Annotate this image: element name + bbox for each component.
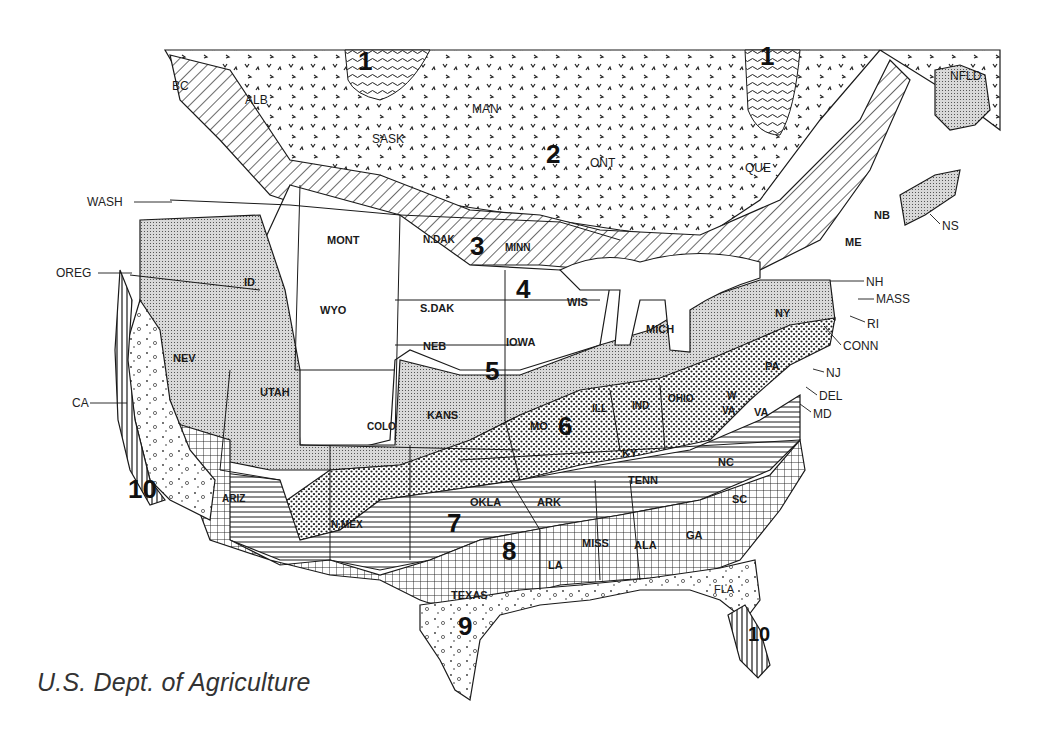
region-label-texas: TEXAS (451, 590, 488, 601)
region-label-nev: NEV (173, 353, 196, 364)
callout-label-nj: NJ (826, 367, 841, 379)
zone-label-10-florida: 10 (748, 624, 770, 644)
region-label-wva-va: VA (722, 406, 735, 416)
zone-label-5: 5 (485, 358, 499, 384)
callout-label-conn: CONN (843, 340, 878, 352)
source-credit: U.S. Dept. of Agriculture (37, 668, 311, 697)
region-label-sdak: S.DAK (420, 303, 454, 314)
callout-label-nh: NH (866, 276, 883, 288)
hardiness-zone-map (0, 0, 1049, 742)
region-label-bc: BC (172, 80, 189, 92)
zone-label-1-east: 1 (760, 43, 774, 69)
region-label-ohio: OHIO (668, 394, 694, 404)
callout-label-del: DEL (819, 390, 842, 402)
region-label-ga: GA (686, 530, 703, 541)
callout-label-md: MD (813, 408, 832, 420)
region-label-nb: NB (874, 210, 890, 221)
region-label-miss: MISS (582, 538, 609, 549)
region-label-okla: OKLA (470, 497, 501, 508)
region-label-nfld: NFLD (950, 70, 981, 82)
region-label-tenn: TENN (628, 475, 658, 486)
region-label-la: LA (548, 560, 563, 571)
region-label-ind: IND (632, 401, 649, 411)
zone-label-3: 3 (470, 233, 484, 259)
zone-label-6: 6 (558, 413, 572, 439)
region-label-wva-w: W (727, 391, 736, 401)
region-label-que: QUE (745, 162, 771, 174)
callout-label-oreg: OREG (56, 267, 91, 279)
region-label-colo: COLO (367, 422, 396, 432)
region-label-sask: SASK (372, 133, 404, 145)
region-label-id: ID (244, 277, 255, 288)
region-label-kans: KANS (427, 410, 458, 421)
region-label-nmex: N.MEX (331, 520, 363, 530)
callout-label-ri: RI (867, 318, 879, 330)
region-label-neb: NEB (423, 341, 446, 352)
callout-label-ns: NS (942, 220, 959, 232)
region-label-me: ME (845, 237, 862, 248)
zone-label-10-west: 10 (128, 476, 157, 502)
zone-label-7: 7 (447, 510, 461, 536)
region-label-wis: WIS (567, 297, 588, 308)
callout-label-wash: WASH (87, 196, 123, 208)
region-label-ala: ALA (634, 540, 657, 551)
region-label-man: MAN (472, 103, 499, 115)
zone-label-9: 9 (458, 613, 472, 639)
region-label-ky: KY (622, 448, 637, 459)
region-label-utah: UTAH (260, 387, 290, 398)
region-label-ont: ONT (590, 157, 615, 169)
region-label-mont: MONT (327, 235, 359, 246)
region-label-va: VA (754, 407, 768, 418)
region-label-minn: MINN (505, 243, 531, 253)
region-label-wyo: WYO (320, 305, 346, 316)
zone-label-8: 8 (502, 538, 516, 564)
region-label-alb: ALB (245, 94, 268, 106)
region-label-sc: SC (732, 494, 747, 505)
callout-label-ca: CA (72, 397, 89, 409)
callout-label-mass: MASS (876, 293, 910, 305)
region-label-ndak: N.DAK (423, 235, 455, 245)
zone-label-4: 4 (516, 276, 530, 302)
region-label-mo: MO (530, 421, 548, 432)
region-label-nc: NC (718, 457, 734, 468)
region-label-fla: FLA (714, 584, 734, 595)
region-label-pa: PA (765, 361, 779, 372)
region-label-ark: ARK (537, 497, 561, 508)
zone-label-2: 2 (546, 141, 560, 167)
region-label-ill: ILL (592, 404, 607, 414)
region-label-mich: MICH (646, 324, 674, 335)
nova-scotia (900, 170, 960, 225)
region-label-ariz: ARIZ (222, 494, 245, 504)
region-label-iowa: IOWA (506, 337, 535, 348)
region-label-ny: NY (775, 308, 790, 319)
zone-label-1: 1 (358, 48, 372, 74)
